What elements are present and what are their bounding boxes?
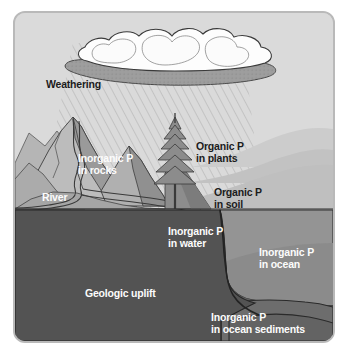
phosphorus-cycle-illustration <box>15 13 333 341</box>
bedrock-layer <box>15 210 255 341</box>
diagram-frame: Weathering Inorganic P in rocks River Or… <box>13 11 335 343</box>
figure-root: Weathering Inorganic P in rocks River Or… <box>0 0 344 352</box>
sediment-lower <box>229 314 333 341</box>
